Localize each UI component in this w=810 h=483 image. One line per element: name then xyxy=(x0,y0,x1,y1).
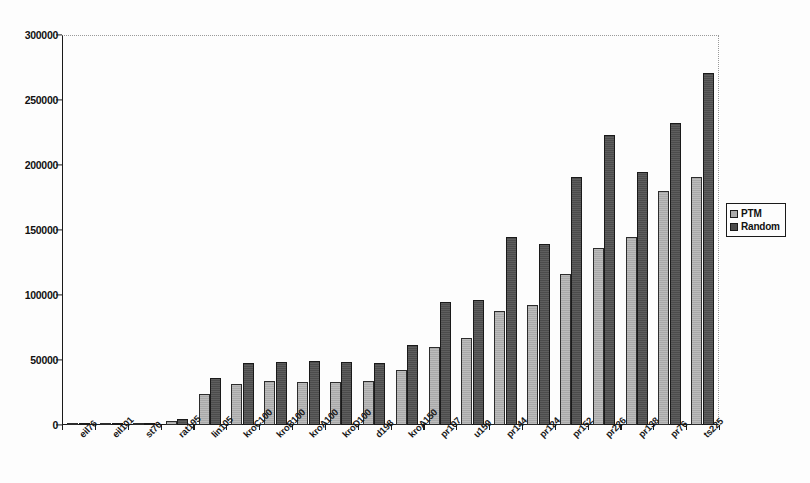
x-axis-tick-mark xyxy=(423,425,424,430)
bar-ptm-pr226 xyxy=(593,248,604,425)
bar-ptm-lin105 xyxy=(199,394,210,425)
bar-random-kroC100 xyxy=(243,363,254,425)
legend-swatch-icon-ptm xyxy=(730,210,738,218)
bar-random-ts225 xyxy=(703,73,714,425)
bar-random-lin105 xyxy=(210,378,221,425)
bar-random-pr107 xyxy=(440,302,451,425)
y-axis-tick-label: 150000 xyxy=(2,224,58,236)
x-axis-tick-mark xyxy=(95,425,96,430)
y-axis-tick-label: 0 xyxy=(2,419,58,431)
bar-ptm-rat195 xyxy=(166,421,177,425)
bar-random-pr76 xyxy=(670,123,681,425)
bar-ptm-kroA100 xyxy=(297,382,308,425)
x-axis-tick-mark xyxy=(620,425,621,430)
x-axis-tick-mark xyxy=(489,425,490,430)
x-axis-tick-mark xyxy=(555,425,556,430)
bar-random-pr152 xyxy=(571,177,582,425)
y-axis-tick-label: 200000 xyxy=(2,159,58,171)
bar-ptm-eil101 xyxy=(100,423,111,425)
bar-ptm-pr76 xyxy=(658,191,669,425)
bar-random-eil101 xyxy=(112,423,123,425)
y-axis-tick-label: 250000 xyxy=(2,94,58,106)
x-axis-tick-mark xyxy=(226,425,227,430)
legend-item-random: Random xyxy=(730,220,780,233)
x-axis-tick-mark xyxy=(456,425,457,430)
x-axis-tick-mark xyxy=(391,425,392,430)
x-axis-tick-mark xyxy=(686,425,687,430)
y-axis-tick-label: 50000 xyxy=(2,354,58,366)
legend-swatch-icon-random xyxy=(730,223,738,231)
bar-ptm-ts225 xyxy=(691,177,702,425)
chart-legend: PTM Random xyxy=(726,203,786,237)
bar-ptm-kroB100 xyxy=(264,381,275,425)
x-axis-tick-mark xyxy=(325,425,326,430)
legend-label-ptm: PTM xyxy=(741,208,762,219)
bar-random-pr226 xyxy=(604,135,615,425)
bar-ptm-u159 xyxy=(461,338,472,425)
bar-ptm-eil76 xyxy=(67,423,78,425)
x-axis-tick-mark xyxy=(259,425,260,430)
bar-ptm-pr152 xyxy=(560,274,571,425)
bar-random-u159 xyxy=(473,300,484,425)
bar-ptm-pr107 xyxy=(429,347,440,425)
legend-label-random: Random xyxy=(741,221,780,232)
x-axis-tick-mark xyxy=(358,425,359,430)
bar-ptm-pr124 xyxy=(527,305,538,425)
y-axis-tick-label: 300000 xyxy=(2,29,58,41)
legend-item-ptm: PTM xyxy=(730,207,780,220)
bar-random-pr144 xyxy=(506,237,517,426)
x-axis-tick-mark xyxy=(588,425,589,430)
x-axis-tick-mark xyxy=(62,425,63,430)
x-axis-tick-mark xyxy=(193,425,194,430)
bar-ptm-pr144 xyxy=(494,311,505,425)
x-axis-tick-mark xyxy=(292,425,293,430)
bars-layer xyxy=(62,35,719,425)
y-axis: 050000100000150000200000250000300000 xyxy=(0,0,58,483)
bar-random-kroB100 xyxy=(276,362,287,425)
bar-ptm-kroC100 xyxy=(231,384,242,425)
bar-random-st70 xyxy=(144,423,155,425)
x-axis-tick-mark xyxy=(653,425,654,430)
bar-random-pr138 xyxy=(637,172,648,426)
bar-ptm-kroA150 xyxy=(396,370,407,425)
bar-ptm-d198 xyxy=(363,381,374,425)
bar-random-pr124 xyxy=(539,244,550,425)
bar-ptm-kroD100 xyxy=(330,382,341,425)
x-axis-tick-mark xyxy=(719,425,720,430)
bar-random-rat195 xyxy=(177,419,188,426)
x-axis-tick-mark xyxy=(161,425,162,430)
bar-chart: 050000100000150000200000250000300000 eil… xyxy=(0,0,810,483)
bar-random-kroD100 xyxy=(341,362,352,425)
bar-ptm-st70 xyxy=(133,423,144,425)
bar-ptm-pr138 xyxy=(626,237,637,425)
x-axis-tick-mark xyxy=(522,425,523,430)
bar-random-d198 xyxy=(374,363,385,425)
bar-random-kroA100 xyxy=(309,361,320,425)
y-axis-tick-label: 100000 xyxy=(2,289,58,301)
x-axis-tick-mark xyxy=(128,425,129,430)
bar-random-kroA150 xyxy=(407,345,418,425)
bar-random-eil76 xyxy=(79,423,90,425)
